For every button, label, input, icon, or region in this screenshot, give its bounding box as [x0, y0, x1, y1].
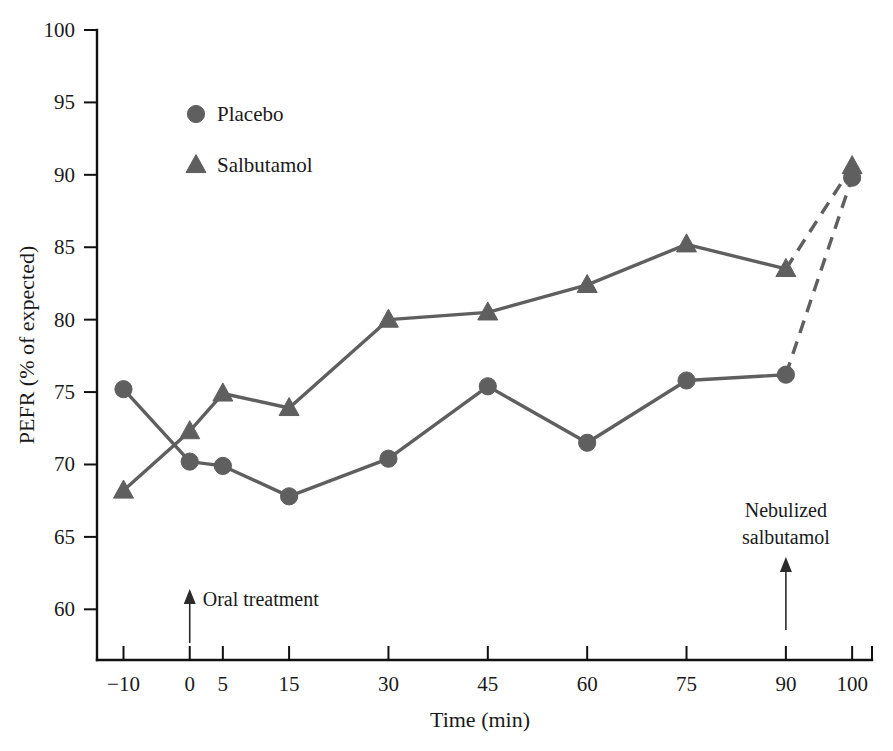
pefr-time-line-chart: 6065707580859095100 −1005153045607590100… [0, 0, 893, 751]
x-tick-label: −10 [107, 672, 140, 696]
data-point-circle [280, 488, 297, 505]
data-point-circle [678, 372, 695, 389]
data-point-circle [115, 381, 132, 398]
x-tick-label: 90 [775, 672, 796, 696]
oral-treatment-label: Oral treatment [203, 588, 319, 610]
y-tick-label: 90 [54, 163, 75, 187]
x-tick-label: 75 [676, 672, 697, 696]
y-tick-label: 80 [54, 308, 75, 332]
x-tick-label: 0 [184, 672, 195, 696]
x-tick-label: 100 [836, 672, 868, 696]
y-tick-label: 100 [44, 18, 76, 42]
data-point-circle [380, 450, 397, 467]
nebulized-label-line1: Nebulized [745, 499, 827, 521]
data-point-circle [181, 453, 198, 470]
y-tick-label: 75 [54, 380, 75, 404]
y-tick-label: 60 [54, 597, 75, 621]
x-tick-label: 5 [218, 672, 229, 696]
chart-figure: 6065707580859095100 −1005153045607590100… [0, 0, 893, 751]
y-tick-label: 70 [54, 452, 75, 476]
legend-marker-circle [187, 105, 204, 122]
y-tick-label: 85 [54, 235, 75, 259]
x-tick-label: 60 [577, 672, 598, 696]
nebulized-label-line2: salbutamol [742, 526, 830, 548]
data-point-circle [479, 378, 496, 395]
y-tick-label: 65 [54, 525, 75, 549]
x-tick-label: 15 [279, 672, 300, 696]
legend-label: Placebo [217, 102, 283, 126]
x-tick-label: 30 [378, 672, 399, 696]
data-point-circle [214, 457, 231, 474]
legend-label: Salbutamol [217, 153, 313, 177]
x-tick-label: 45 [477, 672, 498, 696]
y-axis-title: PEFR (% of expected) [14, 246, 39, 445]
data-point-circle [777, 366, 794, 383]
y-tick-label: 95 [54, 90, 75, 114]
data-point-circle [579, 434, 596, 451]
x-axis-title: Time (min) [430, 707, 530, 732]
